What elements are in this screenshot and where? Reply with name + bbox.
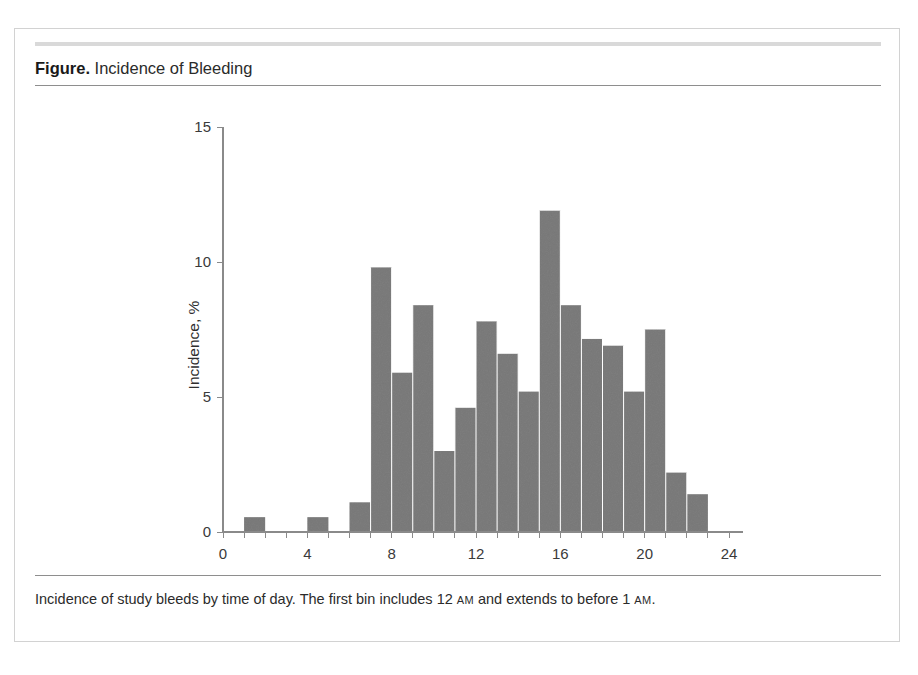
y-tick-label: 5 — [203, 388, 211, 405]
caption-text-2: and extends to before 1 — [474, 591, 634, 607]
x-tick-label: 20 — [636, 545, 653, 562]
histogram-bar — [350, 502, 371, 532]
y-axis-title: Incidence, % — [185, 300, 202, 389]
histogram-bar — [666, 473, 687, 532]
histogram-svg: 04812162024051015 Time of day, h Inciden… — [15, 29, 901, 569]
histogram-bar — [413, 305, 434, 532]
caption-text-1: Incidence of study bleeds by time of day… — [35, 591, 457, 607]
histogram-bar — [560, 305, 581, 532]
histogram-bar — [497, 354, 518, 532]
histogram-bar — [307, 517, 328, 532]
histogram-bar — [371, 267, 392, 532]
x-tick-label: 16 — [552, 545, 569, 562]
chart-plot-area: 04812162024051015 Time of day, h Inciden… — [15, 29, 901, 569]
caption-divider — [35, 575, 881, 576]
histogram-bar — [603, 346, 624, 532]
x-tick-label: 12 — [468, 545, 485, 562]
histogram-bar — [518, 392, 539, 532]
histogram-bar — [392, 373, 413, 532]
figure-page: Figure. Incidence of Bleeding — [0, 0, 918, 675]
x-tick-label: 8 — [388, 545, 396, 562]
x-tick-label: 0 — [219, 545, 227, 562]
y-tick-label: 10 — [194, 253, 211, 270]
figure-container: Figure. Incidence of Bleeding — [14, 28, 900, 642]
y-tick-label: 0 — [203, 523, 211, 540]
x-tick-label: 4 — [303, 545, 311, 562]
histogram-bar — [455, 408, 476, 532]
x-tick-label: 24 — [721, 545, 738, 562]
histogram-bar — [624, 392, 645, 532]
histogram-bar — [645, 330, 666, 533]
histogram-bar — [244, 517, 265, 532]
caption-text-3: . — [651, 591, 655, 607]
histogram-bar — [434, 451, 455, 532]
histogram-bar — [687, 494, 708, 532]
histogram-bar — [539, 211, 560, 532]
caption-am-2: AM — [634, 594, 651, 606]
histogram-bar — [581, 339, 602, 532]
figure-caption: Incidence of study bleeds by time of day… — [35, 589, 881, 610]
caption-am-1: AM — [457, 594, 474, 606]
histogram-bar — [476, 321, 497, 532]
y-tick-label: 15 — [194, 118, 211, 135]
